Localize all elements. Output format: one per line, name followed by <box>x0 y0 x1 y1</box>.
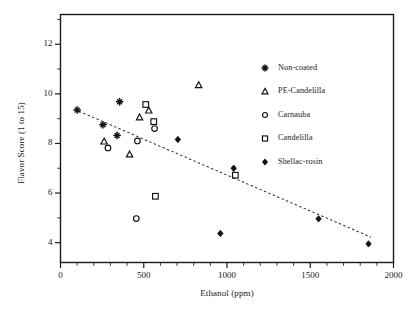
legend-marker-pe-candelilla-icon <box>262 88 268 93</box>
legend-marker-carnauba-icon <box>263 113 268 118</box>
legend-markers <box>0 0 420 316</box>
legend-marker-shellac-rosin-icon <box>262 159 267 165</box>
legend-marker-non-coated-icon <box>262 65 268 71</box>
scatter-chart-figure: Flavor Score (1 to 15) Ethanol (ppm) 050… <box>0 0 420 316</box>
legend-marker-candelilla-icon <box>262 136 267 141</box>
